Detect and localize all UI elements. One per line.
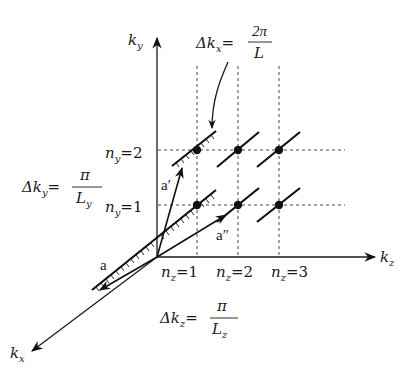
kz-axis-label: kz: [380, 248, 395, 268]
nz-label-1: nz=1: [161, 263, 198, 283]
delta-ky-annotation: Δky= π Ly: [21, 166, 102, 209]
grid-dashed-lines: [158, 66, 345, 257]
k-space-diagram: ky kz kx Δkx= 2π L Δky= π Ly Δkz= π Lz n…: [0, 0, 409, 377]
vector-a-double-prime-label: a″: [216, 227, 229, 243]
ny-label-2: ny=2: [105, 144, 142, 164]
svg-text:2π: 2π: [252, 23, 268, 39]
svg-text:Δkx=: Δkx=: [195, 34, 234, 54]
vector-a-prime-label: a′: [161, 177, 171, 193]
nz-label-2: nz=2: [216, 263, 253, 283]
delta-kz-annotation: Δkz= π Lz: [159, 297, 238, 340]
svg-text:Δkz=: Δkz=: [159, 309, 198, 329]
svg-text:π: π: [79, 166, 91, 184]
state-dot: [193, 201, 201, 209]
ny-label-1: ny=1: [105, 198, 142, 218]
svg-text:Δky=: Δky=: [21, 178, 60, 198]
svg-text:Lz: Lz: [211, 320, 228, 340]
state-dot: [275, 146, 283, 154]
state-dot: [193, 146, 201, 154]
kx-axis-label: kx: [10, 344, 25, 364]
state-dot: [234, 146, 242, 154]
delta-kx-annotation: Δkx= 2π L: [195, 23, 272, 62]
kx-axis: [32, 257, 157, 351]
state-dot: [234, 201, 242, 209]
svg-text:π: π: [216, 297, 228, 315]
state-dot: [275, 201, 283, 209]
nz-label-3: nz=3: [271, 263, 308, 283]
delta-kx-pointer-arrow: [212, 62, 228, 128]
ky-axis-label: ky: [128, 31, 143, 51]
svg-text:L: L: [253, 44, 264, 62]
vector-a-label: a: [100, 257, 107, 273]
svg-text:Ly: Ly: [75, 189, 92, 209]
